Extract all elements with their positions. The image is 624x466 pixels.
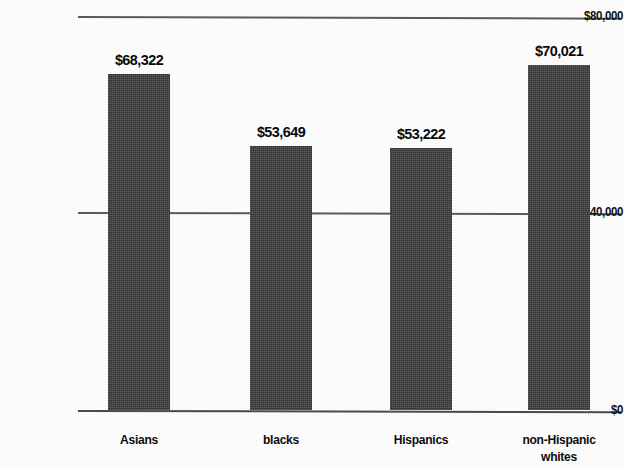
- bar-blacks: [250, 146, 312, 410]
- category-label-asians: Asians: [74, 431, 204, 448]
- category-label-line2: whites: [494, 448, 624, 465]
- bar-value-non-hispanic-whites: $70,021: [503, 42, 615, 60]
- bar-value-asians: $68,322: [83, 51, 195, 69]
- category-label-blacks: blacks: [216, 431, 346, 448]
- bar-non-hispanic-whites: [528, 65, 590, 410]
- bar-value-blacks: $53,649: [225, 123, 337, 141]
- category-label-non-hispanic-whites: non-Hispanic whites: [494, 431, 624, 465]
- bar-value-hispanics: $53,222: [365, 125, 477, 143]
- category-label-line1: Asians: [120, 432, 158, 447]
- bar-hispanics: [390, 148, 452, 410]
- category-label-line1: Hispanics: [394, 432, 449, 447]
- category-label-line1: non-Hispanic: [522, 432, 595, 447]
- bar-asians: [108, 74, 170, 411]
- category-label-line1: blacks: [263, 432, 299, 447]
- category-label-hispanics: Hispanics: [356, 431, 486, 448]
